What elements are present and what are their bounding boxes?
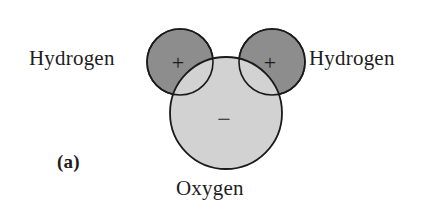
oxygen-label: Oxygen [176, 178, 244, 199]
figure-part-label: (a) [57, 152, 80, 171]
figure-panel: + + − Hydrogen Hydrogen Oxygen (a) [0, 0, 425, 216]
oxygen-charge: − [212, 107, 236, 131]
hydrogen-right-charge: + [258, 52, 282, 74]
hydrogen-left-label: Hydrogen [29, 48, 115, 69]
hydrogen-left-charge: + [166, 52, 190, 74]
hydrogen-right-label: Hydrogen [309, 48, 395, 69]
